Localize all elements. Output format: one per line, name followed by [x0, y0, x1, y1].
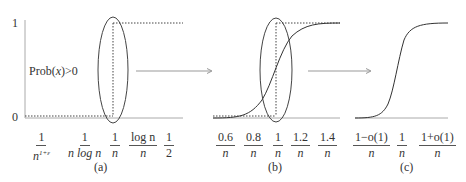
- caption-a: (a): [94, 160, 107, 175]
- x-tick-c-0: 1−o(1) n: [353, 131, 390, 160]
- x-tick-b-2: 1 n: [273, 131, 283, 160]
- right-arrow-icon: [308, 69, 371, 74]
- x-tick-b-4: 1.4 n: [318, 131, 337, 160]
- right-arrow-icon: [136, 69, 212, 74]
- x-tick-c-1: 1 n: [397, 131, 407, 160]
- x-tick-a-0: 1 n1+ε: [33, 131, 50, 163]
- caption-b: (b): [268, 160, 282, 175]
- x-tick-c-2: 1+o(1) n: [419, 131, 456, 160]
- x-tick-a-4: 1 2: [164, 131, 174, 160]
- panel-b-zoom-ellipse: [260, 18, 292, 122]
- x-tick-a-1: 1 n log n: [68, 131, 101, 160]
- y-tick-one: 1: [12, 16, 18, 31]
- panel-b-plot: [213, 18, 340, 122]
- x-tick-b-1: 0.8 n: [244, 131, 263, 160]
- y-tick-zero: 0: [12, 110, 18, 125]
- x-tick-b-0: 0.6 n: [216, 131, 235, 160]
- x-tick-b-3: 1.2 n: [291, 131, 310, 160]
- y-axis-label: Prob(x)>0: [29, 64, 78, 79]
- caption-c: (c): [400, 160, 413, 175]
- x-tick-a-2: 1 n: [110, 131, 120, 160]
- x-tick-a-3: log n n: [129, 131, 157, 160]
